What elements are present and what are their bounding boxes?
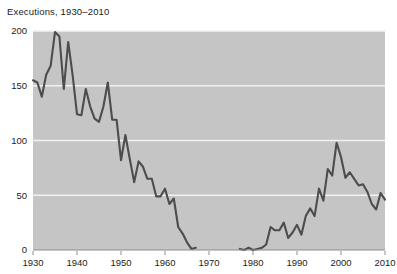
- y-tick-label-100: 100: [11, 135, 27, 146]
- y-tick-label-150: 150: [11, 80, 27, 91]
- x-tick-label-2000: 2000: [330, 257, 351, 268]
- y-axis-ticks: 050100150200: [11, 25, 27, 255]
- x-tick-label-1980: 1980: [242, 257, 263, 268]
- x-tick-label-1950: 1950: [110, 257, 131, 268]
- y-tick-label-200: 200: [11, 25, 27, 36]
- executions-line-chart: Executions, 1930–2010 050100150200 19301…: [0, 0, 397, 274]
- y-tick-label-50: 50: [16, 190, 27, 201]
- x-tick-label-1940: 1940: [66, 257, 87, 268]
- x-tick-label-1970: 1970: [198, 257, 219, 268]
- x-tick-label-1990: 1990: [286, 257, 307, 268]
- y-tick-label-0: 0: [22, 244, 27, 255]
- x-tick-label-2010: 2010: [374, 257, 395, 268]
- x-tick-label-1930: 1930: [22, 257, 43, 268]
- x-axis-ticks: 193019401950196019701980199020002010: [22, 251, 395, 268]
- x-tick-label-1960: 1960: [154, 257, 175, 268]
- chart-plot-area: 050100150200 193019401950196019701980199…: [0, 0, 397, 274]
